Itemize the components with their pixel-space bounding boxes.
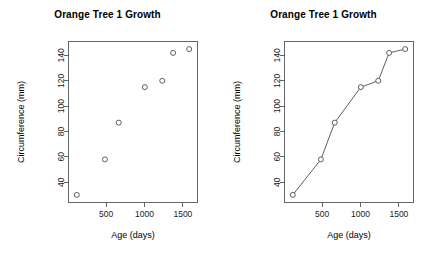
y-axis-tick-label: 60 bbox=[56, 152, 66, 162]
y-axis-tick-label: 120 bbox=[272, 73, 282, 87]
data-point[interactable] bbox=[171, 50, 176, 55]
y-axis-tick-label: 120 bbox=[56, 73, 66, 87]
data-point[interactable] bbox=[74, 192, 79, 197]
x-axis-tick-label: 1000 bbox=[135, 209, 154, 219]
figure-canvas: Orange Tree 1 Growth 5001000150040608010… bbox=[0, 0, 431, 259]
y-axis-tick-label: 100 bbox=[56, 99, 66, 113]
x-axis-tick-label: 500 bbox=[99, 209, 113, 219]
data-point[interactable] bbox=[187, 47, 192, 52]
y-axis-tick-label: 80 bbox=[56, 127, 66, 137]
y-axis-tick-label: 140 bbox=[272, 48, 282, 62]
plot-frame bbox=[285, 42, 414, 203]
x-axis-title: Age (days) bbox=[111, 230, 155, 240]
y-axis-tick-label: 60 bbox=[272, 152, 282, 162]
x-axis-tick-label: 500 bbox=[315, 209, 329, 219]
plot-panel-scatter: Orange Tree 1 Growth 5001000150040608010… bbox=[0, 0, 215, 259]
x-axis-tick-label: 1500 bbox=[173, 209, 192, 219]
data-point[interactable] bbox=[142, 85, 147, 90]
y-axis-tick-label: 40 bbox=[272, 177, 282, 187]
y-axis-tick-label: 140 bbox=[56, 48, 66, 62]
y-axis-title: Circumference (mm) bbox=[16, 81, 26, 163]
x-axis-tick-label: 1000 bbox=[351, 209, 370, 219]
data-point[interactable] bbox=[160, 78, 165, 83]
y-axis-tick-label: 80 bbox=[272, 127, 282, 137]
data-point[interactable] bbox=[116, 120, 121, 125]
data-point[interactable] bbox=[102, 157, 107, 162]
y-axis-tick-label: 100 bbox=[272, 99, 282, 113]
x-axis-tick-label: 1500 bbox=[389, 209, 408, 219]
x-axis-title: Age (days) bbox=[327, 230, 371, 240]
plot-panel-connected: Orange Tree 1 Growth 5001000150040608010… bbox=[216, 0, 431, 259]
y-axis-title: Circumference (mm) bbox=[232, 81, 242, 163]
scatter-plot-svg: 50010001500406080100120140Age (days)Circ… bbox=[0, 0, 215, 259]
line-plot-svg: 50010001500406080100120140Age (days)Circ… bbox=[216, 0, 431, 259]
data-series-line bbox=[293, 49, 405, 195]
y-axis-tick-label: 40 bbox=[56, 177, 66, 187]
plot-frame bbox=[69, 42, 198, 203]
